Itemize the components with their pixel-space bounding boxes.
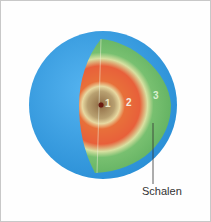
layer-label-2: 2 bbox=[126, 97, 132, 108]
layer-label-1: 1 bbox=[105, 98, 111, 109]
caption-schalen: Schalen bbox=[142, 185, 182, 197]
nucleus bbox=[99, 103, 104, 108]
diagram-frame: 1 2 3 Schalen bbox=[0, 0, 211, 222]
layer-label-3: 3 bbox=[153, 90, 159, 101]
